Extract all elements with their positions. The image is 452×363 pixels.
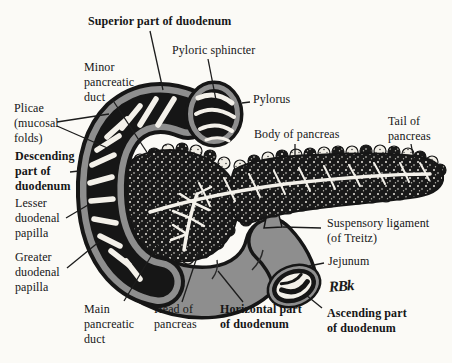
label-greater-duodenal-papilla: Greater duodenal papilla: [15, 250, 60, 295]
label-plicae-mucosal-folds: Plicae (mucosal folds): [14, 101, 59, 146]
leader-superior-part: [150, 31, 163, 90]
leader-pylorus: [242, 102, 250, 103]
label-pylorus: Pylorus: [253, 92, 290, 107]
label-jejunum: Jejunum: [328, 254, 369, 269]
label-head-of-pancreas: Head of pancreas: [154, 302, 197, 332]
label-body-of-pancreas: Body of pancreas: [254, 127, 340, 142]
label-horizontal-part-of-duodenum: Horizontal part of duodenum: [220, 302, 302, 332]
label-minor-pancreatic-duct: Minor pancreatic duct: [84, 60, 134, 105]
artist-signature: RBk: [328, 277, 354, 296]
label-lesser-duodenal-papilla: Lesser duodenal papilla: [15, 196, 60, 241]
label-pyloric-sphincter: Pyloric sphincter: [172, 43, 255, 58]
label-main-pancreatic-duct: Main pancreatic duct: [84, 302, 134, 347]
label-suspensory-ligament: Suspensory ligament (of Treitz): [327, 216, 429, 246]
figure-duodenum-pancreas: Superior part of duodenum Pyloric sphinc…: [0, 0, 452, 363]
label-superior-part-of-duodenum: Superior part of duodenum: [88, 14, 231, 29]
label-tail-of-pancreas: Tail of pancreas: [388, 114, 431, 144]
label-descending-part-of-duodenum: Descending part of duodenum: [15, 149, 75, 194]
label-ascending-part-of-duodenum: Ascending part of duodenum: [327, 306, 407, 336]
